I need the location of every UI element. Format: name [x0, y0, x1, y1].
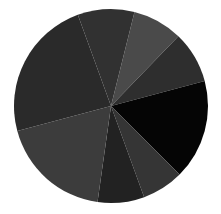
pie-chart [0, 0, 221, 214]
pie-chart-canvas [0, 0, 221, 214]
